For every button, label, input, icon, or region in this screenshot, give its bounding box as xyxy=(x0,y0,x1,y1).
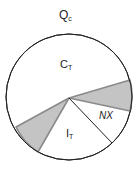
diagram-title: Qc xyxy=(59,9,72,22)
segment-label-ct: CT xyxy=(60,59,72,71)
ct-sub: T xyxy=(68,64,72,71)
pie-diagram xyxy=(0,0,139,175)
segment-label-it: IT xyxy=(66,128,73,140)
it-sub: T xyxy=(69,133,73,140)
title-sub: c xyxy=(68,15,72,22)
nx-base: NX xyxy=(99,110,113,121)
segment-label-nx: NX xyxy=(99,111,113,121)
title-base: Q xyxy=(59,8,68,22)
ct-base: C xyxy=(60,58,68,70)
